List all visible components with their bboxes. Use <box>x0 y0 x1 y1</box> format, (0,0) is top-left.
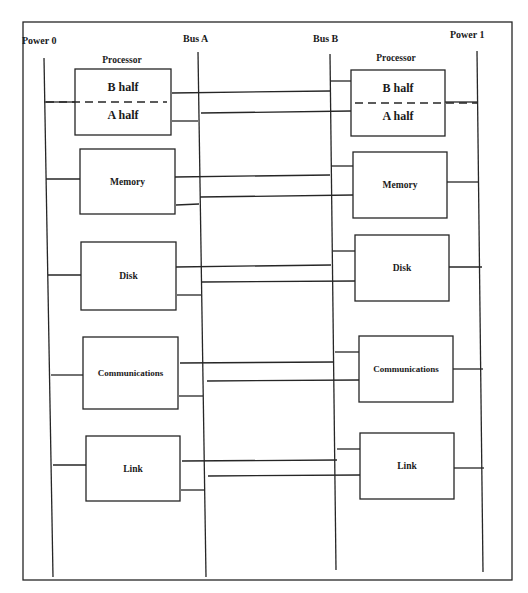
communications-left-label: Communications <box>98 368 164 378</box>
dual-bus-architecture-diagram: B halfA halfProcessorB halfA halfProcess… <box>0 0 528 593</box>
disk-right-label: Disk <box>393 263 412 273</box>
busA-label: Bus A <box>183 33 209 44</box>
link-right-label: Link <box>397 461 417 471</box>
power1-label: Power 1 <box>450 29 485 40</box>
communications-right-module: Communications <box>359 336 453 402</box>
busB-label: Bus B <box>313 33 339 44</box>
memory-right-label: Memory <box>383 180 418 190</box>
communications-left-module: Communications <box>83 337 178 409</box>
link-left-module: Link <box>86 436 180 501</box>
processor-left-b-half-label: B half <box>107 80 139 94</box>
processor-left-a-half-label: A half <box>107 108 139 122</box>
memory-left-label: Memory <box>110 177 145 187</box>
disk-right-module: Disk <box>355 235 449 301</box>
disk-left-module: Disk <box>81 242 176 310</box>
link-right-module: Link <box>360 433 454 499</box>
memory-right-module: Memory <box>353 152 447 218</box>
link-left-label: Link <box>123 464 143 474</box>
memory-left-module: Memory <box>80 149 175 214</box>
communications-right-label: Communications <box>373 364 439 374</box>
processor-right-a-half-label: A half <box>382 109 414 123</box>
processor-left-title: Processor <box>102 55 142 65</box>
power0-label: Power 0 <box>22 35 57 46</box>
disk-left-label: Disk <box>119 271 138 281</box>
processor-right-title: Processor <box>376 53 416 63</box>
processor-right-b-half-label: B half <box>382 81 414 95</box>
